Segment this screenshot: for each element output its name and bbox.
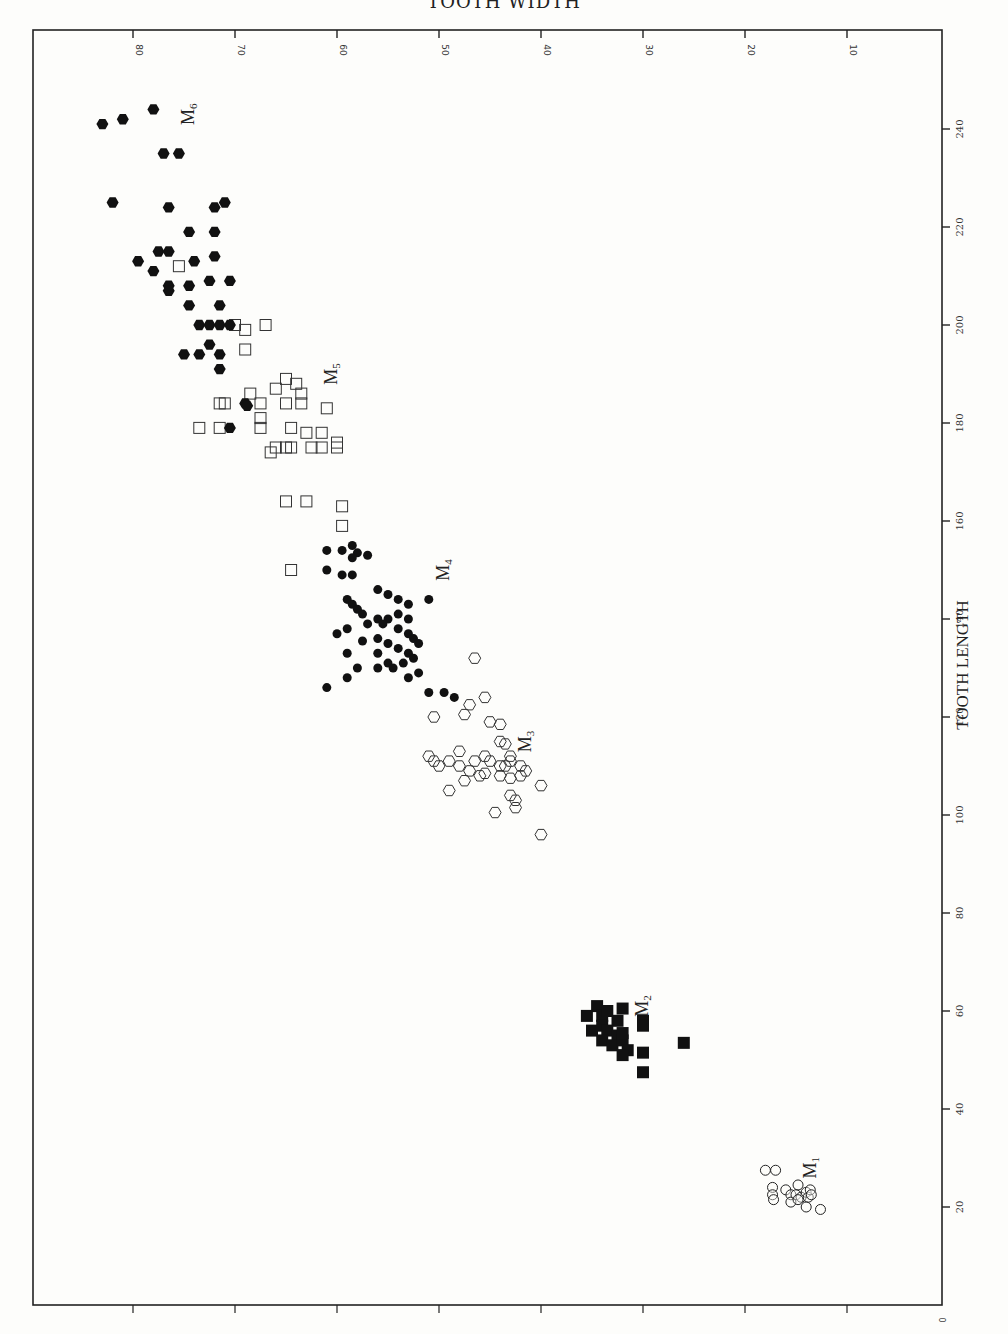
series-label-m4: M4: [433, 559, 454, 581]
series-m5: [173, 261, 347, 576]
svg-text:60: 60: [954, 1005, 965, 1018]
svg-text:10: 10: [848, 44, 858, 56]
svg-text:40: 40: [542, 44, 552, 56]
origin-label: 0: [939, 1317, 948, 1322]
series-label-m1: M1: [800, 1157, 821, 1179]
svg-text:100: 100: [954, 805, 965, 824]
svg-text:30: 30: [644, 44, 654, 56]
data-points: [96, 104, 825, 1214]
svg-text:240: 240: [954, 119, 965, 138]
series-label-m2: M2: [632, 995, 653, 1017]
series-label-m5: M5: [321, 363, 342, 385]
series-labels: M1M2M3M4M5M6: [178, 103, 821, 1179]
svg-text:60: 60: [338, 44, 348, 56]
svg-text:20: 20: [954, 1201, 965, 1214]
svg-text:40: 40: [954, 1103, 965, 1116]
svg-text:180: 180: [954, 413, 965, 432]
axis-ticks: 1020304050607080204060801001201401601802…: [133, 30, 965, 1313]
scatter-chart: 1020304050607080204060801001201401601802…: [0, 0, 1008, 1334]
svg-text:20: 20: [746, 44, 756, 56]
series-m6: [96, 104, 253, 433]
series-label-m6: M6: [178, 103, 199, 125]
svg-text:220: 220: [954, 217, 965, 236]
series-label-m3: M3: [515, 730, 536, 752]
svg-text:80: 80: [134, 44, 144, 56]
x-axis-label: TOOTH LENGTH: [953, 600, 972, 730]
svg-text:80: 80: [954, 907, 965, 920]
plot-frame: [33, 30, 942, 1305]
svg-text:160: 160: [954, 511, 965, 530]
svg-text:200: 200: [954, 315, 965, 334]
svg-text:70: 70: [236, 44, 246, 56]
svg-text:50: 50: [440, 44, 450, 56]
